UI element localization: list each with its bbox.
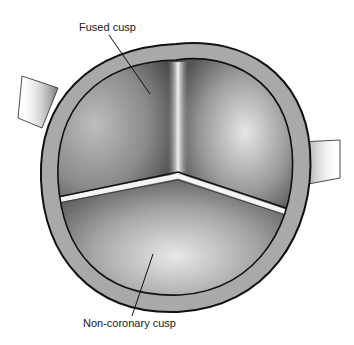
fused-cusp-label: Fused cusp (79, 21, 136, 33)
valve-illustration (0, 0, 354, 345)
valve-diagram: Fused cusp Non-coronary cusp (0, 0, 354, 345)
non-coronary-cusp-label: Non-coronary cusp (83, 317, 176, 329)
